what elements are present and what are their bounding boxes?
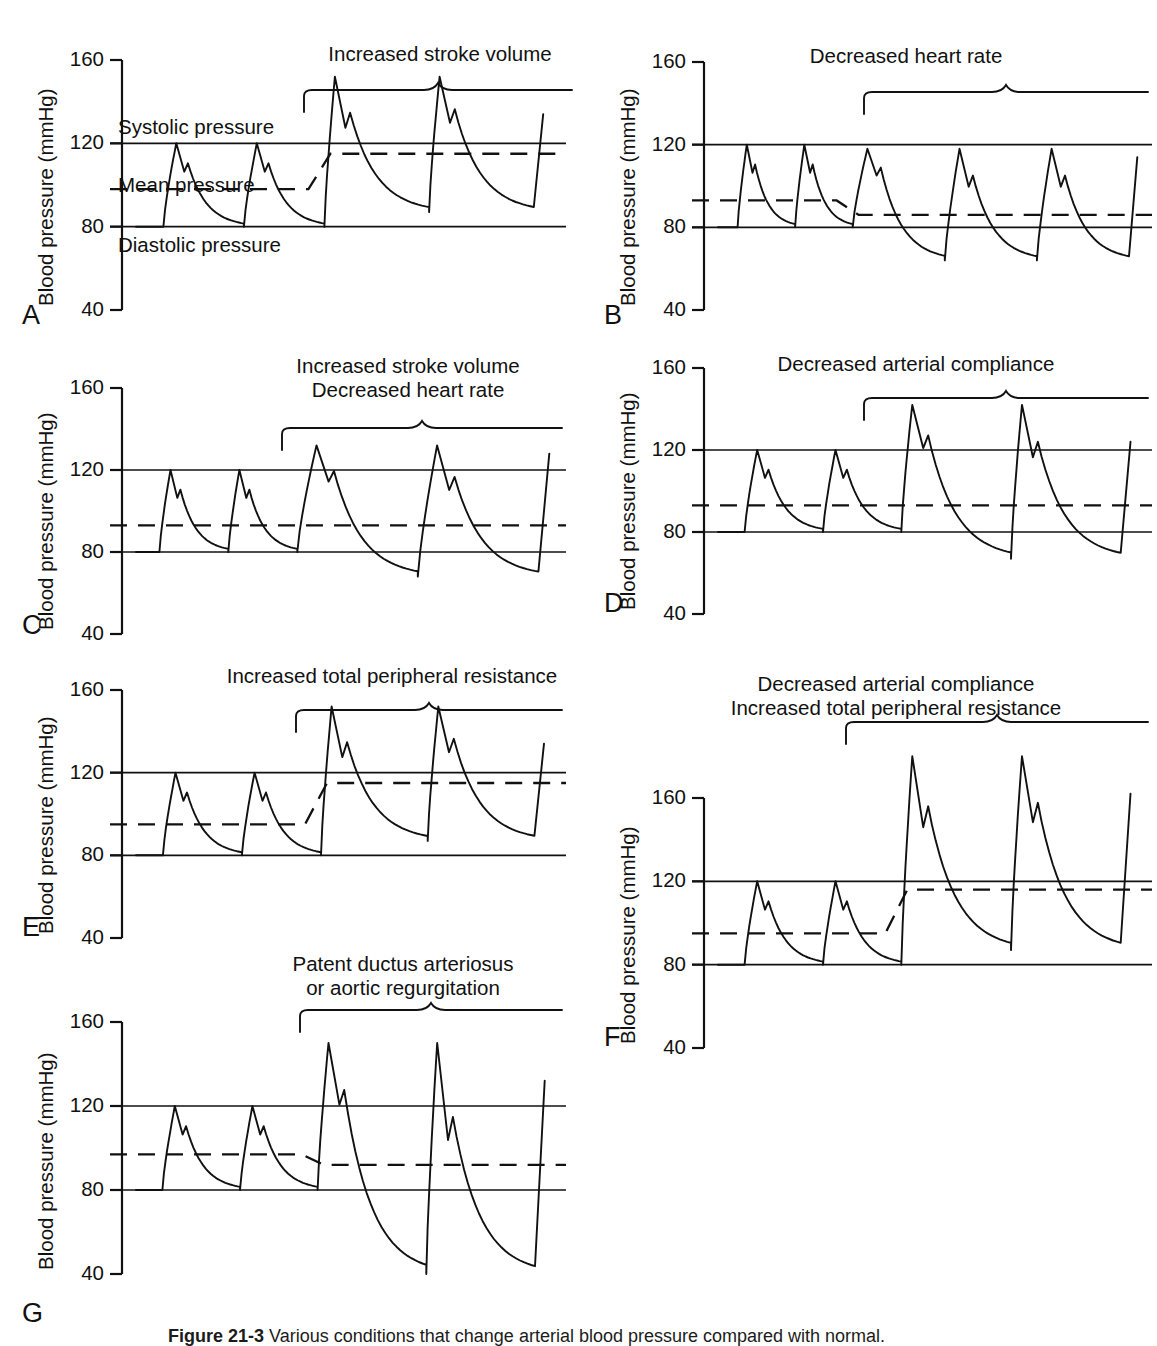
condition-brace (846, 715, 1148, 744)
mean-pressure-line (110, 783, 566, 824)
panel-letter-e: E (22, 912, 40, 943)
y-tick-label: 80 (58, 539, 104, 563)
panel-letter-d: D (604, 588, 624, 619)
y-tick-label: 40 (58, 1261, 104, 1285)
mean-pressure-line (110, 1154, 566, 1165)
y-tick-label: 120 (640, 437, 686, 461)
y-tick-label: 80 (640, 214, 686, 238)
y-tick-label: 120 (58, 457, 104, 481)
condition-label-c: Increased stroke volumeDecreased heart r… (250, 354, 566, 402)
condition-brace (864, 391, 1148, 420)
pressure-waveform (136, 1043, 545, 1274)
y-tick-label: 80 (58, 1177, 104, 1201)
panel-g (18, 1022, 566, 1274)
condition-label-line: Increased total peripheral resistance (218, 664, 566, 688)
y-axis-title: Blood pressure (mmHg) (34, 88, 58, 306)
y-axis-title: Blood pressure (mmHg) (616, 826, 640, 1044)
condition-label-a: Increased stroke volume (300, 42, 580, 66)
condition-brace (296, 703, 562, 732)
brace-g (296, 1006, 566, 1032)
condition-label-line: Decreased arterial compliance (640, 672, 1152, 696)
brace-d (860, 394, 1152, 420)
figure-caption-text: Various conditions that change arterial … (269, 1326, 885, 1346)
condition-brace (282, 421, 562, 450)
condition-label-g: Patent ductus arteriosusor aortic regurg… (238, 952, 568, 1000)
diastolic-pressure-label: Diastolic pressure (118, 233, 281, 257)
condition-label-f: Decreased arterial complianceIncreased t… (640, 672, 1152, 720)
y-axis-title: Blood pressure (mmHg) (34, 1052, 58, 1270)
y-tick-label: 160 (58, 47, 104, 71)
condition-label-line: Decreased arterial compliance (680, 352, 1152, 376)
y-tick-label: 40 (640, 1035, 686, 1059)
y-tick-label: 160 (58, 375, 104, 399)
brace-c (278, 424, 566, 450)
brace-b (860, 88, 1152, 114)
y-tick-label: 40 (58, 297, 104, 321)
y-tick-label: 40 (58, 925, 104, 949)
systolic-pressure-label: Systolic pressure (118, 115, 274, 139)
brace-a (300, 86, 576, 112)
panel-letter-a: A (22, 300, 40, 331)
y-tick-label: 80 (58, 214, 104, 238)
figure-caption-prefix: Figure 21-3 (168, 1326, 264, 1346)
condition-label-line: Decreased heart rate (250, 378, 566, 402)
brace-e (292, 706, 566, 732)
y-tick-label: 40 (640, 297, 686, 321)
y-tick-label: 120 (58, 130, 104, 154)
y-axis-title: Blood pressure (mmHg) (34, 716, 58, 934)
y-tick-label: 160 (640, 785, 686, 809)
condition-label-line: Increased total peripheral resistance (640, 696, 1152, 720)
condition-label-line: Increased stroke volume (250, 354, 566, 378)
y-tick-label: 160 (58, 1009, 104, 1033)
condition-label-line: Patent ductus arteriosus (238, 952, 568, 976)
y-tick-label: 120 (640, 132, 686, 156)
y-tick-label: 80 (58, 842, 104, 866)
brace-f (842, 718, 1152, 744)
condition-label-b: Decreased heart rate (660, 44, 1152, 68)
condition-label-line: Increased stroke volume (300, 42, 580, 66)
y-tick-label: 40 (640, 601, 686, 625)
y-tick-label: 120 (640, 868, 686, 892)
pressure-waveform (718, 145, 1137, 261)
y-tick-label: 120 (58, 1093, 104, 1117)
pressure-waveform (136, 445, 549, 576)
condition-label-d: Decreased arterial compliance (680, 352, 1152, 376)
panel-f (600, 798, 1152, 1048)
condition-brace (300, 1003, 562, 1032)
y-tick-label: 80 (640, 952, 686, 976)
y-tick-label: 160 (58, 677, 104, 701)
panel-letter-f: F (604, 1022, 621, 1053)
y-tick-label: 40 (58, 621, 104, 645)
mean-pressure-line (692, 200, 1152, 214)
y-axis-title: Blood pressure (mmHg) (616, 392, 640, 610)
condition-label-line: Decreased heart rate (660, 44, 1152, 68)
figure-caption: Figure 21-3 Various conditions that chan… (168, 1326, 885, 1346)
panel-letter-c: C (22, 610, 42, 641)
pressure-waveform (718, 405, 1131, 559)
panel-letter-g: G (22, 1298, 43, 1329)
condition-label-line: or aortic regurgitation (238, 976, 568, 1000)
y-axis-title: Blood pressure (mmHg) (616, 88, 640, 306)
y-axis-title: Blood pressure (mmHg) (34, 412, 58, 630)
panel-letter-b: B (604, 300, 622, 331)
y-tick-label: 80 (640, 519, 686, 543)
mean-pressure-label: Mean pressure (118, 173, 255, 197)
condition-brace (864, 85, 1148, 114)
condition-label-e: Increased total peripheral resistance (218, 664, 566, 688)
condition-brace (304, 83, 572, 112)
y-tick-label: 120 (58, 760, 104, 784)
